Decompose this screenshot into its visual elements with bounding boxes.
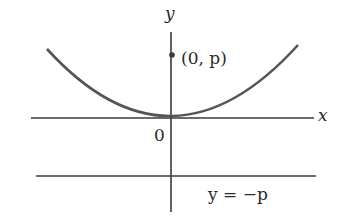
focus-point	[169, 52, 175, 58]
diagram-canvas	[0, 0, 346, 220]
directrix-label: y = −p	[208, 186, 268, 203]
origin-label: 0	[154, 127, 165, 144]
focus-label: (0, p)	[181, 50, 227, 67]
x-axis-label: x	[318, 107, 328, 124]
y-axis-label: y	[165, 5, 175, 22]
